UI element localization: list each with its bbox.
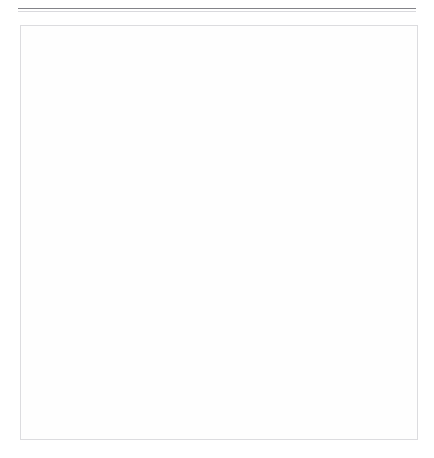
page-top-rule-secondary — [18, 11, 416, 12]
chart-plot-area — [21, 26, 417, 439]
chart-frame — [20, 25, 418, 440]
page-top-rule — [18, 8, 416, 9]
